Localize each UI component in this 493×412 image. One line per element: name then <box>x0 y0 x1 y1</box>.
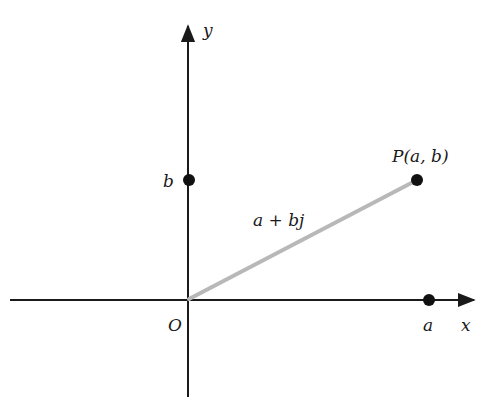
point-p <box>411 174 423 186</box>
point-b-label: b <box>163 171 174 191</box>
vector-line <box>189 180 417 299</box>
complex-plane-diagram: y x O P(a, b) b a a + bj <box>0 0 493 412</box>
vector-label: a + bj <box>253 210 305 230</box>
origin-label: O <box>168 315 182 335</box>
point-b <box>183 174 195 186</box>
point-a-label: a <box>423 315 433 335</box>
y-axis-label: y <box>202 20 213 40</box>
point-p-label: P(a, b) <box>391 146 449 166</box>
point-a <box>423 294 435 306</box>
x-axis-label: x <box>461 315 471 335</box>
